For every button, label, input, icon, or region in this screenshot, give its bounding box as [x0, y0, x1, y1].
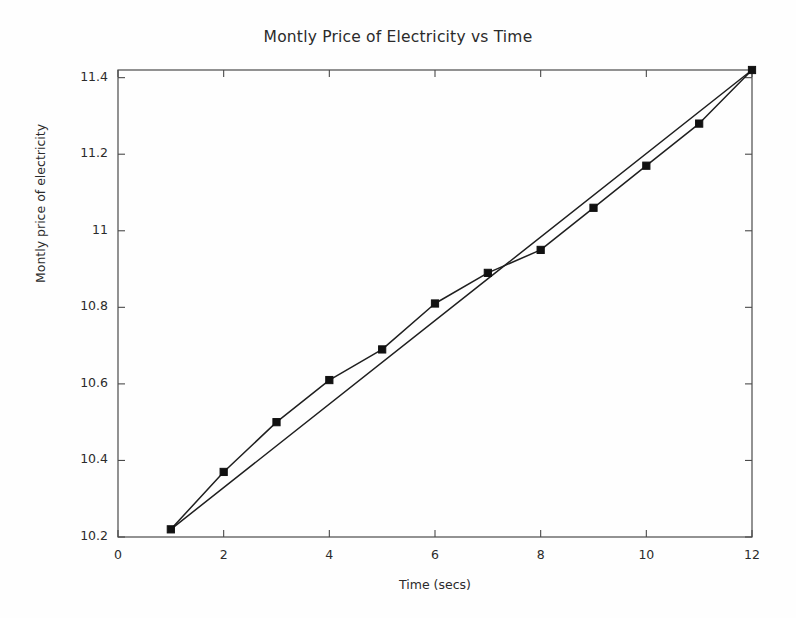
x-tick-label: 2: [204, 547, 244, 562]
y-tick-label: 11.4: [48, 69, 108, 84]
data-point-marker: [748, 66, 755, 73]
data-point-marker: [431, 300, 438, 307]
y-tick-label: 10.6: [48, 375, 108, 390]
data-point-marker: [590, 204, 597, 211]
x-tick-label: 0: [98, 547, 138, 562]
data-series-lines: [171, 70, 752, 529]
x-tick-label: 6: [415, 547, 455, 562]
y-tick-label: 11.2: [48, 145, 108, 160]
chart-figure: Montly Price of Electricity vs Time Mont…: [0, 0, 796, 618]
data-point-marker: [273, 419, 280, 426]
data-point-marker: [326, 376, 333, 383]
y-tick-label: 10.8: [48, 298, 108, 313]
y-tick-label: 10.2: [48, 528, 108, 543]
data-point-marker: [484, 269, 491, 276]
x-tick-label: 10: [626, 547, 666, 562]
series-line-1: [171, 70, 752, 529]
data-point-marker: [379, 346, 386, 353]
plot-area: [0, 0, 796, 618]
data-point-marker: [643, 162, 650, 169]
data-point-marker: [696, 120, 703, 127]
data-point-marker: [167, 526, 174, 533]
y-tick-label: 10.4: [48, 451, 108, 466]
data-point-marker: [220, 468, 227, 475]
x-tick-label: 8: [521, 547, 561, 562]
y-tick-label: 11: [48, 222, 108, 237]
data-point-marker: [537, 246, 544, 253]
x-tick-label: 4: [309, 547, 349, 562]
x-tick-label: 12: [732, 547, 772, 562]
